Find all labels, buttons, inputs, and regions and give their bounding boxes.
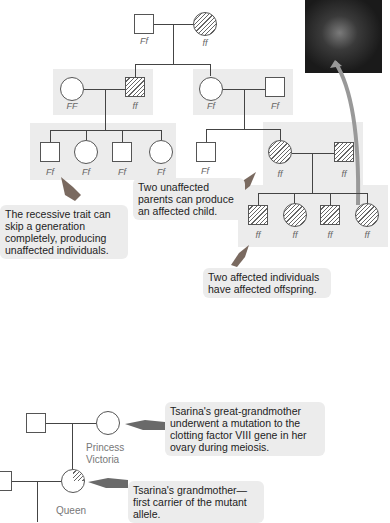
gen2-left-female [60,77,84,101]
gen4-male-affected [248,205,268,225]
gen1-male [134,14,154,34]
pointing-hand-icon [125,418,167,432]
pointing-hand-icon [225,243,253,269]
genotype: Ff [193,166,217,176]
gen3-left-male [40,142,60,162]
genotype: ff [246,230,270,240]
note-affected-parents: Two affected individuals have affected o… [203,268,331,298]
gen3-right-male-affected [334,142,354,162]
genotype: Ff [149,167,173,177]
gen2-right-female [199,77,223,101]
princess-victoria-label: Princess Victoria [86,442,132,466]
queen-carrier [61,469,85,493]
gen3-left-female [74,140,98,164]
gen3-left-female [149,140,173,164]
queen-label: Queen [56,505,86,517]
gen3-right-male [196,142,216,162]
pointing-hand-icon [57,175,85,203]
genotype: Ff [263,101,287,111]
genotype: ff [318,230,342,240]
genotype: ff [193,38,217,48]
genotype: Ff [110,167,134,177]
gen1-female-affected [193,12,217,36]
gen4-female-affected [283,203,307,227]
gen4-female-affected [355,203,379,227]
note-skip-generation: The recessive trait can skip a generatio… [0,205,128,259]
gen2-left-male-affected [125,77,145,97]
genotype: ff [268,169,292,179]
note-unaffected-parents: Two unaffected parents can produce an af… [133,178,245,220]
gen4-male-affected [320,205,340,225]
royal-male-2 [0,471,12,491]
royal-male [26,413,46,433]
pointing-hand-icon [88,476,130,490]
princess-victoria [96,411,120,435]
arrow-icon [330,60,370,210]
gen3-right-female-affected [268,140,292,164]
genotype: Ff [199,101,223,111]
gen3-left-male [112,142,132,162]
genotype: FF [60,101,84,111]
genotype: ff [332,169,356,179]
gen2-right-male [265,77,285,97]
note-great-grandmother: Tsarina's great-grandmother underwent a … [165,402,325,456]
genotype: Ff [132,36,156,46]
genotype: ff [123,101,147,111]
genotype: ff [355,230,379,240]
genotype: ff [283,230,307,240]
note-grandmother: Tsarina's grandmother—first carrier of t… [128,481,264,523]
